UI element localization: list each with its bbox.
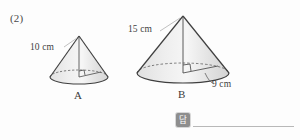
answer-input-line[interactable]: [193, 126, 294, 127]
cone-a-name-label: A: [74, 89, 82, 101]
answer-row: 답: [176, 113, 296, 131]
cone-a-group: [50, 36, 108, 84]
cone-b-radius-label: 9 cm: [212, 79, 231, 89]
answer-badge-icon: 답: [176, 113, 190, 127]
worksheet-page: (2): [0, 0, 300, 140]
cone-b-slant-label: 15 cm: [128, 24, 152, 34]
cone-b-name-label: B: [178, 88, 185, 100]
answer-badge-glyph: 답: [179, 116, 187, 125]
cone-a-slant-label: 10 cm: [30, 42, 54, 52]
